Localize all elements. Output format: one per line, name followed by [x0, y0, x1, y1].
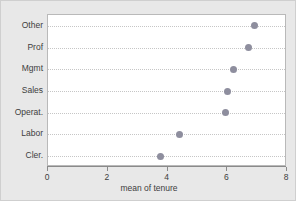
- x-axis-tick-mark: [107, 167, 108, 171]
- x-axis-tick-mark: [167, 167, 168, 171]
- y-axis-tick-label: Sales: [0, 85, 43, 95]
- plot-area: [47, 14, 286, 166]
- data-point: [176, 131, 183, 138]
- x-axis-tick-mark: [47, 167, 48, 171]
- x-axis-tick-mark: [226, 167, 227, 171]
- y-axis-tick-label: Mgmt: [0, 63, 43, 73]
- y-axis-tick-label: Cler.: [0, 150, 43, 160]
- x-axis-tick-mark: [286, 167, 287, 171]
- data-point: [157, 153, 164, 160]
- y-axis-tick-label: Prof: [0, 42, 43, 52]
- data-point: [224, 88, 231, 95]
- y-axis-tick-label: Labor: [0, 128, 43, 138]
- x-axis-tick-label: 6: [224, 172, 229, 182]
- y-axis-tick-label: Operat.: [0, 107, 43, 117]
- y-axis-tick-label: Other: [0, 20, 43, 30]
- chart-figure: OtherProfMgmtSalesOperat.LaborCler. 0246…: [0, 0, 296, 201]
- data-point: [230, 66, 237, 73]
- x-axis-title: mean of tenure: [1, 183, 296, 193]
- x-axis-tick-label: 8: [284, 172, 289, 182]
- data-point: [251, 22, 258, 29]
- x-axis-tick-label: 2: [104, 172, 109, 182]
- data-point: [222, 109, 229, 116]
- data-point: [245, 44, 252, 51]
- x-axis-tick-label: 4: [164, 172, 169, 182]
- x-axis-tick-label: 0: [45, 172, 50, 182]
- points-layer: [48, 15, 285, 165]
